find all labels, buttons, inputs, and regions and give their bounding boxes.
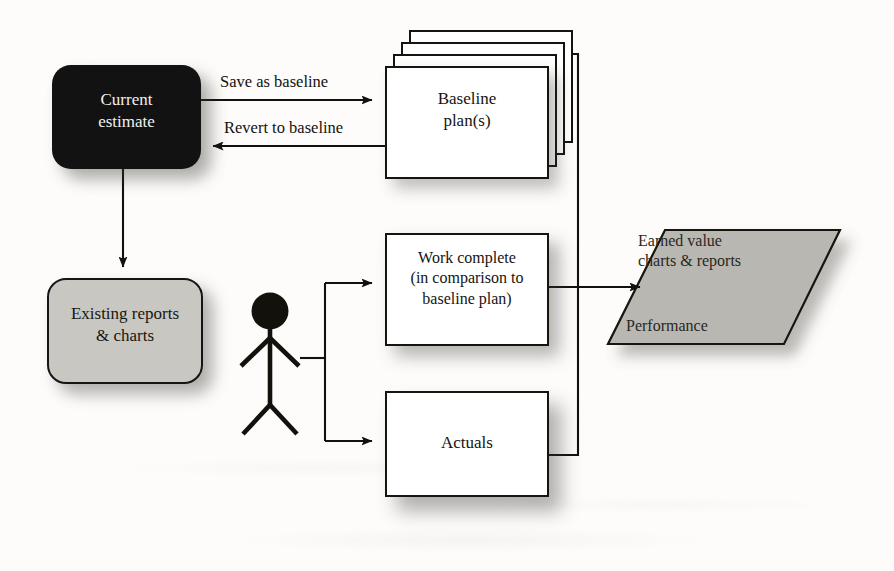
- node-baseline-plans[interactable]: [385, 66, 549, 179]
- node-existing-reports[interactable]: [47, 278, 203, 384]
- node-current-estimate[interactable]: [52, 65, 201, 169]
- actor-head-icon: [252, 293, 289, 330]
- actor-legs-line: [243, 405, 297, 434]
- node-work-complete[interactable]: [385, 233, 549, 346]
- node-actuals[interactable]: [385, 391, 549, 497]
- edge-actuals-to-spine: [549, 287, 578, 455]
- diagram-canvas: Current estimate Baseline plan(s) Existi…: [0, 0, 894, 571]
- node-earned-value-charts-shape: [608, 230, 840, 344]
- actor-stick-figure: [241, 293, 299, 435]
